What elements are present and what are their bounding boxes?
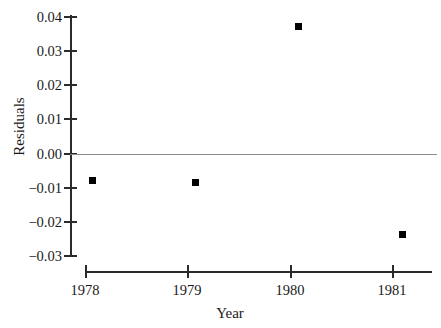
x-axis-title: Year — [180, 306, 280, 321]
y-tick-mark — [64, 255, 77, 257]
data-point-1981 — [399, 231, 406, 238]
y-tick-mark — [64, 118, 77, 120]
x-tick-mark — [85, 265, 87, 278]
y-tick-mark — [64, 50, 77, 52]
x-tick-mark — [187, 265, 189, 278]
x-tick-label-1979: 1979 — [157, 283, 217, 298]
x-tick-label-1980: 1980 — [260, 283, 320, 298]
y-tick-label-6: −0.02 — [16, 215, 62, 230]
x-axis-line — [85, 271, 432, 273]
x-tick-label-1978: 1978 — [55, 283, 115, 298]
residuals-scatter-chart: 0.04 0.03 0.02 0.01 0.00 −0.01 −0.02 −0.… — [0, 0, 441, 328]
y-axis-title: Residuals — [12, 72, 27, 182]
y-tick-mark — [64, 16, 77, 18]
x-tick-mark — [392, 265, 394, 278]
zero-reference-line — [70, 154, 437, 155]
y-tick-label-0: 0.04 — [16, 10, 62, 25]
data-point-1979 — [192, 179, 199, 186]
y-tick-mark — [64, 84, 77, 86]
y-tick-mark — [64, 221, 77, 223]
x-tick-mark — [290, 265, 292, 278]
y-tick-label-1: 0.03 — [16, 44, 62, 59]
data-point-1980 — [295, 23, 302, 30]
y-tick-label-7: −0.03 — [16, 249, 62, 264]
x-tick-label-1981: 1981 — [362, 283, 422, 298]
y-tick-label-5: −0.01 — [16, 181, 62, 196]
data-point-1978 — [89, 177, 96, 184]
y-tick-mark — [64, 187, 77, 189]
